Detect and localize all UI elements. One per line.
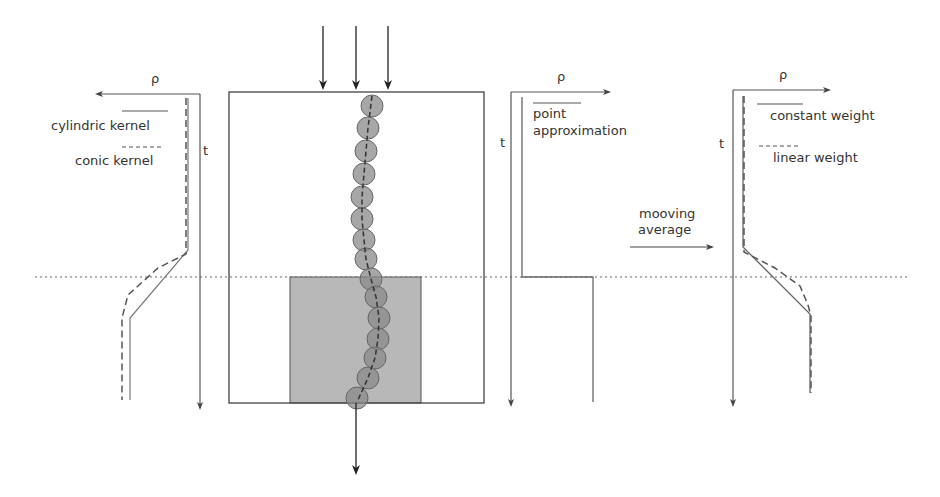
cylindric-kernel-curve [130,98,188,400]
legend-point-line2: approximation [533,123,627,139]
left-t-label: t [203,143,208,158]
right-panel [733,90,829,405]
moving-average-line1: mooving [639,206,695,222]
conic-kernel-curve [122,98,186,400]
left-rho-label: ρ [151,71,159,86]
legend-cylindric-kernel: cylindric kernel [51,118,150,134]
legend-point-line1: point [533,106,566,122]
point-approximation-curve [522,97,593,402]
left-panel [97,94,200,408]
right-rho-label: ρ [779,67,787,82]
legend-constant-weight: constant weight [770,108,874,124]
moving-average-line2: average [638,222,691,238]
center-volume [229,26,484,470]
dense-region-block [290,277,421,403]
legend-conic-kernel: conic kernel [75,153,153,169]
middle-t-label: t [500,135,505,150]
linear-weight-curve [744,96,811,393]
diagram-canvas [0,0,940,497]
middle-rho-label: ρ [557,69,565,84]
constant-weight-curve [743,96,810,393]
legend-linear-weight: linear weight [773,150,858,166]
right-t-label: t [719,136,724,151]
